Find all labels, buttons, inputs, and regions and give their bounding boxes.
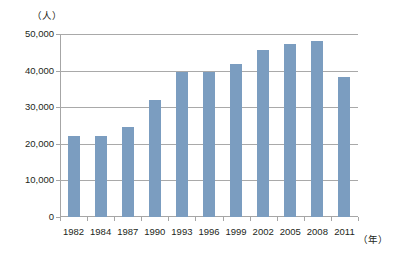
x-axis-tick	[250, 217, 251, 221]
bar	[149, 100, 161, 217]
y-axis-tick-label: 50,000	[2, 29, 54, 39]
y-axis-tick-label: 0	[2, 212, 54, 222]
x-axis-tick	[168, 217, 169, 221]
x-axis-tick	[60, 217, 61, 221]
x-axis-tick	[114, 217, 115, 221]
bar	[284, 44, 296, 217]
bar	[338, 77, 350, 217]
x-axis-tick	[331, 217, 332, 221]
x-axis-tick-label: 2011	[328, 226, 360, 237]
bar	[176, 72, 188, 217]
y-axis-tick-label: 40,000	[2, 66, 54, 76]
x-axis-tick	[358, 217, 359, 221]
bar	[95, 136, 107, 217]
plot-area	[60, 34, 358, 217]
bar	[68, 136, 80, 217]
bar-series	[60, 34, 358, 217]
x-axis-tick	[87, 217, 88, 221]
y-axis-tick-label: 30,000	[2, 102, 54, 112]
x-axis-tick	[304, 217, 305, 221]
x-axis-unit-label: （年）	[358, 232, 388, 246]
bar-chart: （人） （年） 010,00020,00030,00040,00050,000 …	[0, 0, 399, 262]
bar	[122, 127, 134, 217]
y-axis-tick-label: 20,000	[2, 139, 54, 149]
bar	[230, 64, 242, 217]
bar	[311, 41, 323, 217]
bar	[257, 50, 269, 217]
x-axis-tick	[141, 217, 142, 221]
x-axis-tick	[277, 217, 278, 221]
x-axis-tick	[223, 217, 224, 221]
bar	[203, 72, 215, 217]
x-axis-tick	[195, 217, 196, 221]
y-axis-unit-label: （人）	[32, 8, 62, 22]
y-axis-tick-label: 10,000	[2, 175, 54, 185]
